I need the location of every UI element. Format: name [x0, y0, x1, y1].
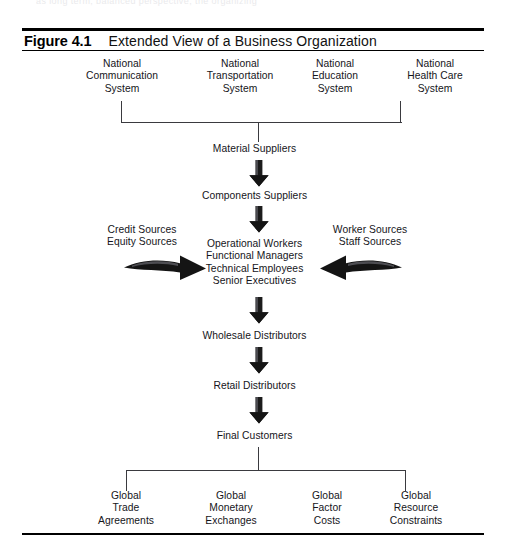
figure-rule-bottom	[22, 533, 484, 535]
node-national-health-care-system: National Health Care System	[380, 58, 490, 95]
arrow-down-icon-1	[249, 160, 269, 187]
node-core-organization: Operational Workers Functional Managers …	[0, 238, 509, 288]
caption-rule-bottom	[22, 50, 484, 51]
arrow-down-icon-5	[249, 397, 269, 424]
connector-bottom-center-stem	[258, 447, 259, 471]
node-global-resource-constraints: Global Resource Constraints	[364, 490, 468, 527]
connector-top-bar	[121, 122, 402, 123]
node-national-education-system: National Education System	[283, 58, 387, 95]
node-material-suppliers: Material Suppliers	[0, 143, 509, 155]
connector-top-right-drop	[400, 101, 401, 123]
node-final-customers: Final Customers	[0, 430, 509, 442]
node-wholesale-distributors: Wholesale Distributors	[0, 330, 509, 342]
node-global-monetary-exchanges: Global Monetary Exchanges	[178, 490, 284, 527]
arrow-down-icon-3	[249, 297, 269, 324]
node-national-transportation-system: National Transportation System	[180, 58, 300, 95]
arrow-down-icon-2	[249, 206, 269, 233]
figure-caption: Figure 4.1 Extended View of a Business O…	[24, 31, 377, 50]
figure-number: Figure 4.1	[24, 33, 92, 49]
connector-top-left-drop	[121, 101, 122, 123]
connector-bottom-right-drop	[405, 470, 406, 491]
page-bleed-text: as long term, balanced perspective, the …	[36, 0, 456, 8]
node-national-communication-system: National Communication System	[62, 58, 182, 95]
connector-bottom-left-drop	[126, 470, 127, 491]
connector-top-center-stem	[258, 122, 259, 142]
arrow-down-icon-4	[249, 347, 269, 374]
connector-bottom-bar	[126, 470, 406, 471]
node-components-suppliers: Components Suppliers	[0, 190, 509, 202]
figure-title: Extended View of a Business Organization	[109, 33, 377, 49]
figure-page: as long term, balanced perspective, the …	[0, 0, 509, 553]
node-global-trade-agreements: Global Trade Agreements	[76, 490, 176, 527]
node-global-factor-costs: Global Factor Costs	[282, 490, 372, 527]
node-retail-distributors: Retail Distributors	[0, 380, 509, 392]
